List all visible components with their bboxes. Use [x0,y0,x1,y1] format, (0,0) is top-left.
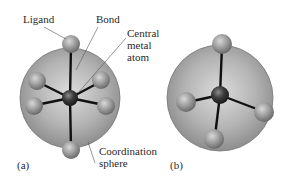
label-bond: Bond [96,13,120,25]
ligand-icon [176,92,196,112]
ligand-icon [62,35,80,53]
ligand-icon [254,102,274,122]
ligand-icon [97,97,115,115]
panel-label-b: (b) [170,159,183,172]
ligand-icon [28,72,46,90]
coordination-complex-diagram: Ligand Bond Central metal atom Coordinat… [0,0,291,179]
ligand-icon [25,97,43,115]
central-metal-atom-b [211,86,229,104]
ligand-icon [212,34,232,54]
label-ligand: Ligand [23,13,55,25]
label-coordination-sphere: Coordination sphere [99,145,160,169]
ligand-icon [204,129,224,149]
panel-a: Ligand Bond Central metal atom Coordinat… [17,13,162,172]
panel-label-a: (a) [17,159,30,172]
central-metal-atom-a [62,90,78,106]
ligand-icon [62,141,80,159]
label-central-metal-atom: Central metal atom [127,27,162,63]
panel-b: (b) [167,34,274,172]
